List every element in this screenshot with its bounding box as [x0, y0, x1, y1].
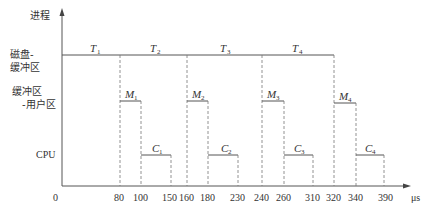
svg-text:T: T [220, 42, 227, 54]
tick-label: 260 [276, 192, 291, 203]
tick-label: 100 [133, 192, 148, 203]
svg-text:2: 2 [201, 94, 205, 102]
svg-text:4: 4 [299, 48, 303, 56]
segment-label-t3: T3 [220, 42, 231, 56]
segment-label-m1: M1 [124, 88, 138, 102]
segment-label-m3: M3 [266, 88, 280, 102]
segment-label-c2: C2 [221, 142, 232, 156]
tick-label: 160 [179, 192, 194, 203]
x-axis-arrow-icon [403, 184, 411, 189]
row-label-disk-line1: 磁盘- [10, 48, 34, 60]
svg-text:1: 1 [134, 94, 138, 102]
row-label-cpu: CPU [36, 149, 56, 160]
svg-text:3: 3 [301, 148, 305, 156]
tick-label: 340 [348, 192, 363, 203]
tick-label: 390 [378, 192, 393, 203]
origin-label: 0 [53, 192, 58, 203]
tick-label: 310 [305, 192, 320, 203]
svg-text:3: 3 [227, 48, 231, 56]
tick-label: 320 [326, 192, 341, 203]
segment-label-t2: T2 [150, 42, 161, 56]
segment-label-m4: M4 [338, 90, 352, 104]
y-axis-arrow-icon [60, 8, 65, 16]
svg-text:1: 1 [159, 148, 163, 156]
tick-label: 240 [254, 192, 269, 203]
tick-label: 230 [230, 192, 245, 203]
svg-text:T: T [292, 42, 299, 54]
segment-label-t1: T1 [90, 42, 101, 56]
segment-label-c4: C4 [365, 142, 376, 156]
svg-text:4: 4 [348, 96, 352, 104]
svg-text:T: T [90, 42, 97, 54]
segment-label-m2: M2 [191, 88, 205, 102]
svg-text:3: 3 [276, 94, 280, 102]
timing-diagram: 进程 μs 0 磁盘- 缓冲区 缓冲区 -用户区 CPU T1 T2 T3 T4… [0, 0, 423, 209]
segment-label-c3: C3 [294, 142, 305, 156]
segment-label-c1: C1 [152, 142, 163, 156]
svg-text:2: 2 [228, 148, 232, 156]
segment-label-t4: T4 [292, 42, 303, 56]
tick-label: 150 [162, 192, 177, 203]
tick-label: 80 [114, 192, 124, 203]
row-label-move-line1: 缓冲区 [12, 85, 42, 97]
svg-text:4: 4 [372, 148, 376, 156]
svg-text:T: T [150, 42, 157, 54]
svg-text:1: 1 [97, 48, 101, 56]
row-label-move-line2: -用户区 [22, 98, 56, 110]
row-label-disk-line2: 缓冲区 [10, 61, 40, 73]
x-axis-unit: μs [411, 192, 420, 203]
tick-label: 180 [200, 192, 215, 203]
y-axis-label: 进程 [30, 10, 50, 21]
svg-text:2: 2 [157, 48, 161, 56]
